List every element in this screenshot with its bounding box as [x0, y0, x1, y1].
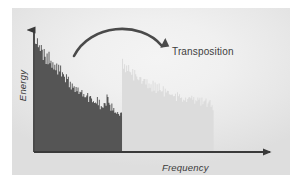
spectrum-figure: Transposition Energy Frequency [12, 8, 290, 175]
transposition-arrow [74, 29, 162, 56]
plot-area: Transposition Energy Frequency [12, 8, 290, 175]
transposition-label: Transposition [172, 46, 234, 57]
y-axis-label: Energy [17, 63, 28, 109]
series-original-spectrum [35, 38, 122, 151]
x-axis-label: Frequency [162, 162, 209, 173]
series-transposed-spectrum [122, 59, 214, 151]
figure-root: Transposition Energy Frequency [0, 0, 302, 183]
spectrum-plot-svg [12, 8, 290, 175]
